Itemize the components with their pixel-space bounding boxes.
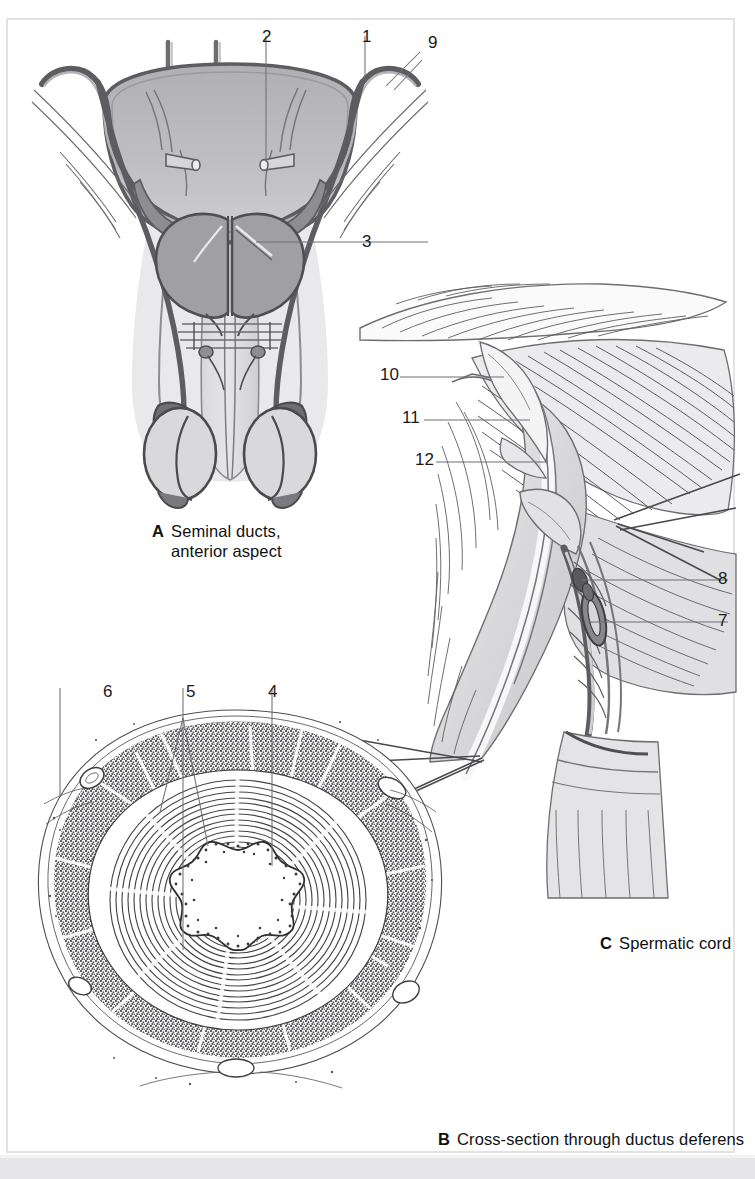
label-7: 7 — [718, 612, 727, 629]
label-9: 9 — [428, 34, 437, 51]
label-2: 2 — [262, 28, 271, 45]
figure-page: 2 1 9 3 ASeminal ducts, anterior aspect — [0, 0, 755, 1179]
label-11: 11 — [402, 409, 420, 426]
label-10: 10 — [380, 366, 399, 383]
caption-panel-a: ASeminal ducts, anterior aspect — [152, 500, 282, 562]
caption-b-text: Cross-section through ductus deferens — [457, 1130, 744, 1148]
panel-b-illustration — [40, 700, 440, 1100]
caption-panel-b: BCross-section through ductus deferens — [438, 1108, 744, 1149]
caption-panel-c: CSpermatic cord — [600, 912, 731, 953]
caption-c-letter: C — [600, 934, 612, 952]
label-8: 8 — [718, 570, 727, 587]
caption-c-text: Spermatic cord — [619, 934, 731, 952]
label-12: 12 — [415, 451, 434, 468]
caption-a-text: Seminal ducts, anterior aspect — [171, 521, 282, 562]
label-5: 5 — [186, 683, 195, 700]
label-3: 3 — [362, 233, 371, 250]
panel-b-cross-section — [40, 700, 440, 1100]
caption-b-letter: B — [438, 1130, 450, 1148]
page-bottom-band — [0, 1158, 755, 1179]
label-1: 1 — [362, 28, 371, 45]
label-6: 6 — [103, 683, 112, 700]
caption-a-letter: A — [152, 522, 164, 540]
label-4: 4 — [268, 683, 277, 700]
